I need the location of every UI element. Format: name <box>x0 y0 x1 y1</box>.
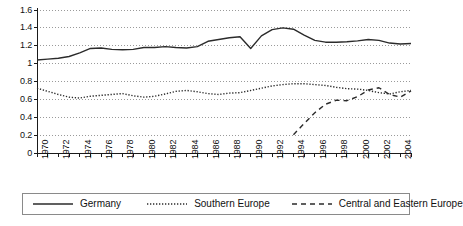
x-tick-label: 1978 <box>126 140 135 159</box>
x-tick-label: 1996 <box>319 140 328 159</box>
y-tick-label: 0.2 <box>2 131 32 140</box>
x-tick-label: 1986 <box>212 140 221 159</box>
x-tick-label: 1982 <box>169 140 178 159</box>
x-tick-label: 1998 <box>340 140 349 159</box>
legend-line-dotted-icon <box>147 199 187 209</box>
x-tick-label: 1974 <box>84 140 93 159</box>
plot-svg <box>0 0 434 190</box>
x-tick-label: 2004 <box>404 140 413 159</box>
y-tick-label: 1.4 <box>2 23 32 32</box>
legend-label-germany: Germany <box>80 199 121 209</box>
legend-label-southern-europe: Southern Europe <box>194 199 270 209</box>
y-tick-label: 0.8 <box>2 77 32 86</box>
y-tick-label: 1.6 <box>2 6 32 15</box>
x-tick-label: 1984 <box>191 140 200 159</box>
y-tick-label: 1.2 <box>2 41 32 50</box>
x-tick-label: 2002 <box>383 140 392 159</box>
y-tick-label: 1 <box>2 59 32 68</box>
x-tick-label: 1994 <box>297 140 306 159</box>
legend-item-central-eastern-europe: Central and Eastern Europe <box>292 194 463 214</box>
y-tick-label: 0.6 <box>2 95 32 104</box>
legend-label-central-eastern-europe: Central and Eastern Europe <box>339 199 463 209</box>
x-tick-label: 1972 <box>62 140 71 159</box>
legend-item-southern-europe: Southern Europe <box>147 194 270 214</box>
y-tick-label: 0.4 <box>2 113 32 122</box>
plot-area: 00.20.40.60.811.21.41.6 1970197219741976… <box>0 0 434 190</box>
legend-line-solid-icon <box>33 199 73 209</box>
legend-item-germany: Germany <box>33 194 121 214</box>
chart-legend: Germany Southern Europe Central and East… <box>22 193 410 215</box>
y-tick-label: 0 <box>2 149 32 158</box>
legend-line-dashed-icon <box>292 199 332 209</box>
x-tick-label: 1976 <box>105 140 114 159</box>
x-tick-label: 1970 <box>41 140 50 159</box>
x-tick-label: 1988 <box>233 140 242 159</box>
x-tick-label: 1990 <box>255 140 264 159</box>
x-tick-label: 1980 <box>148 140 157 159</box>
x-tick-label: 2000 <box>362 140 371 159</box>
x-tick-label: 1992 <box>276 140 285 159</box>
